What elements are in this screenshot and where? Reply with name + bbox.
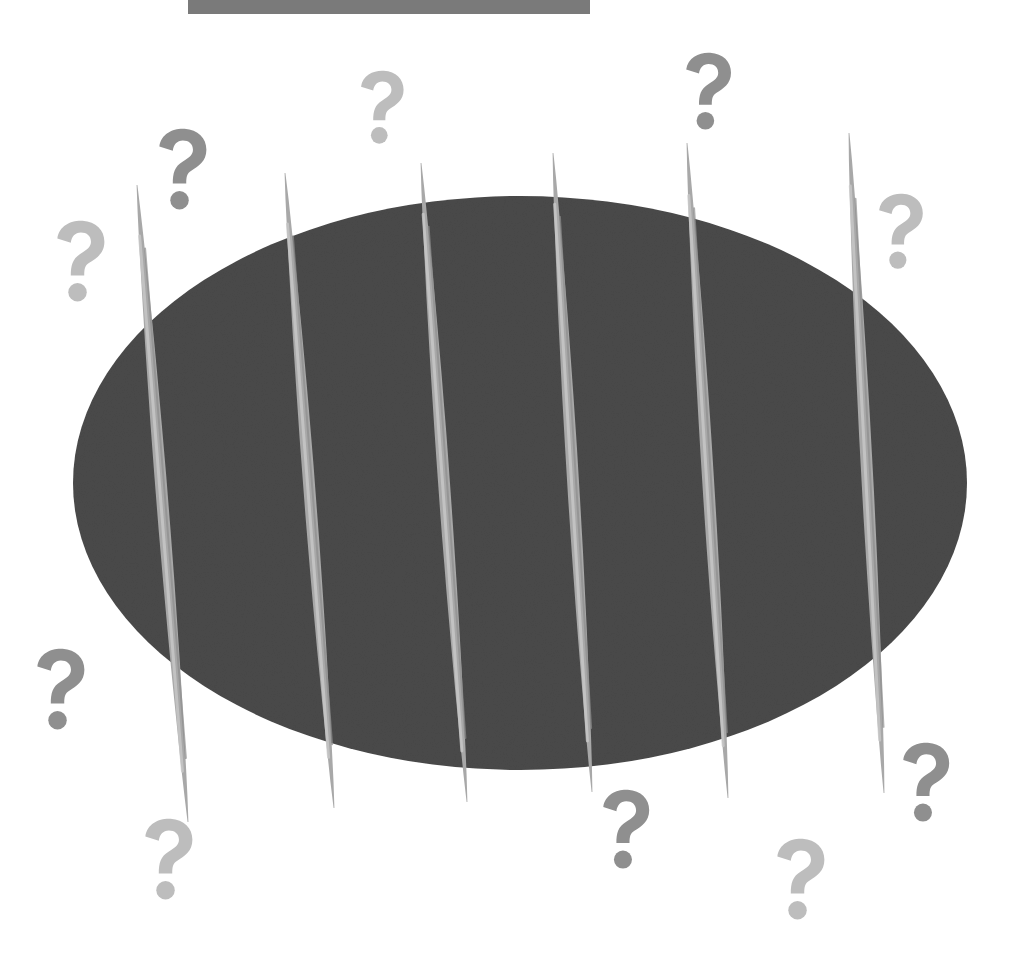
question-mark-icon [142,818,194,902]
question-mark-icon [34,648,86,732]
question-mark-icon [876,193,924,271]
question-mark-icon [156,128,208,212]
question-mark-icon [774,838,826,922]
question-mark-icon [683,52,733,132]
question-marks-layer [0,0,1030,973]
question-mark-icon [600,789,651,871]
question-mark-icon [900,742,951,824]
question-mark-icon [54,220,106,304]
question-mark-icon [358,70,405,146]
